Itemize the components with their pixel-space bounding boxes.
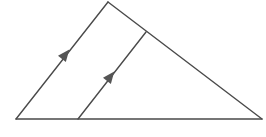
triangle-right-side xyxy=(108,2,262,119)
triangle-diagram xyxy=(0,0,266,137)
diagram-canvas: ) xyxy=(0,0,266,137)
triangle-left-side xyxy=(16,2,108,119)
